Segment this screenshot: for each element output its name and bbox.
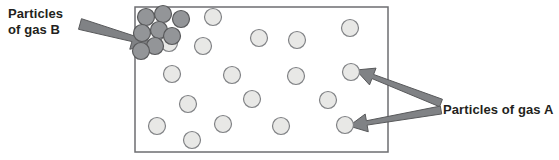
gas-b-particle <box>138 9 155 26</box>
gas-a-particle <box>251 30 268 47</box>
gas-b-particle <box>155 6 172 23</box>
gas-a-particle <box>343 64 360 81</box>
gas-a-particle <box>184 132 201 149</box>
diagram-canvas <box>0 0 559 160</box>
gas-a-particle <box>164 66 181 83</box>
gas-a-particle <box>195 38 212 55</box>
gas-particles-diagram: Particles of gas B Particles of gas A <box>0 0 559 160</box>
gas-a-particle <box>342 20 359 37</box>
gas-a-particle <box>149 118 166 135</box>
gas-a-particle <box>320 92 337 109</box>
gas-a-particle <box>289 32 306 49</box>
gas-b-particle <box>164 28 181 45</box>
gas-b-particle <box>134 25 151 42</box>
gas-a-particle <box>337 117 354 134</box>
gas-a-particle <box>273 118 290 135</box>
gas-a-particle <box>288 68 305 85</box>
gas-a-particle <box>215 116 232 133</box>
gas-a-particle <box>244 91 261 108</box>
gas-a-particle <box>205 9 222 26</box>
gas-b-particle <box>133 43 150 60</box>
gas-b-particle <box>173 11 190 28</box>
gas-a-particle <box>180 96 197 113</box>
gas-a-particle <box>224 67 241 84</box>
